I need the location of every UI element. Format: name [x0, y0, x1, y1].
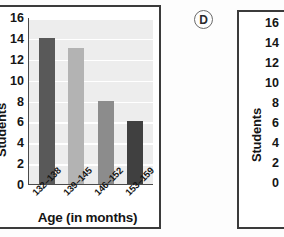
y-axis-tick-label: 8 — [272, 97, 279, 110]
y-axis-tick-labels-secondary: 1614121086420 — [253, 23, 279, 183]
y-axis-tick-label: 8 — [17, 95, 24, 108]
y-axis-tick-label: 12 — [10, 54, 24, 67]
chart-body-secondary: Students 1614121086420 13 — [239, 12, 284, 227]
plot-area — [28, 18, 153, 185]
x-axis-title: Age (in months) — [20, 210, 155, 225]
y-axis-tick-label: 10 — [265, 77, 279, 90]
y-axis-tick-label: 4 — [17, 137, 24, 150]
y-axis-tick-label: 6 — [272, 117, 279, 130]
y-axis-tick-labels: 1614121086420 — [0, 18, 24, 185]
chart-body: Students 1614121086420 132–138139–145146… — [0, 7, 159, 227]
bar — [68, 48, 84, 184]
y-axis-tick-label: 2 — [272, 157, 279, 170]
y-axis-tick-label: 16 — [265, 17, 279, 30]
option-letter-badge[interactable]: D — [194, 10, 213, 29]
bar-chart-panel-secondary: Students 1614121086420 13 — [237, 10, 284, 229]
bar — [39, 38, 55, 184]
x-axis-tick-labels-secondary: 13 — [283, 184, 284, 216]
y-axis-tick-label: 14 — [10, 33, 24, 46]
plot-area-secondary — [283, 23, 284, 183]
y-axis-tick-label: 14 — [265, 37, 279, 50]
y-axis-tick-label: 6 — [17, 116, 24, 129]
y-axis-tick-label: 16 — [10, 12, 24, 25]
y-axis-tick-label: 2 — [17, 158, 24, 171]
y-axis-tick-label: 0 — [272, 177, 279, 190]
y-axis-tick-label: 4 — [272, 137, 279, 150]
bar-series — [29, 18, 153, 184]
bar-chart-panel-primary: Students 1614121086420 132–138139–145146… — [0, 5, 161, 229]
y-axis-tick-label: 0 — [17, 179, 24, 192]
y-axis-tick-label: 10 — [10, 74, 24, 87]
y-axis-tick-label: 12 — [265, 57, 279, 70]
